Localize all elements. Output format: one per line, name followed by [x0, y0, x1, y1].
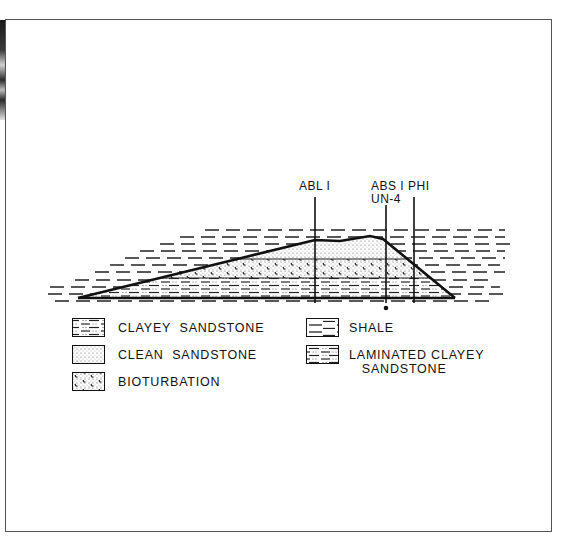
legend-label-laminated-clayey-sandstone: LAMINATED CLAYEY SANDSTONE [349, 348, 484, 376]
legend-swatch-bioturbation [72, 372, 105, 391]
cross-section-diagram [0, 0, 573, 549]
well-sublabel-abs1: UN-4 [371, 193, 401, 206]
legend-label-clayey-sandstone: CLAYEY SANDSTONE [118, 321, 264, 335]
legend-swatch-clayey-sandstone [72, 318, 105, 337]
well-label-phi1: PHI [408, 180, 430, 193]
legend-label-clean-sandstone: CLEAN SANDSTONE [118, 348, 257, 362]
legend-swatch-laminated-clayey-sandstone [306, 345, 339, 364]
legend-label-bioturbation: BIOTURBATION [118, 375, 220, 389]
well-abs1-marker [384, 306, 389, 311]
legend-swatch-clean-sandstone [72, 345, 105, 364]
legend-swatch-shale [306, 318, 339, 337]
legend-label-shale: SHALE [349, 321, 394, 335]
well-label-abl1: ABL I [299, 180, 330, 193]
clayey-sandstone-unit [70, 278, 470, 299]
